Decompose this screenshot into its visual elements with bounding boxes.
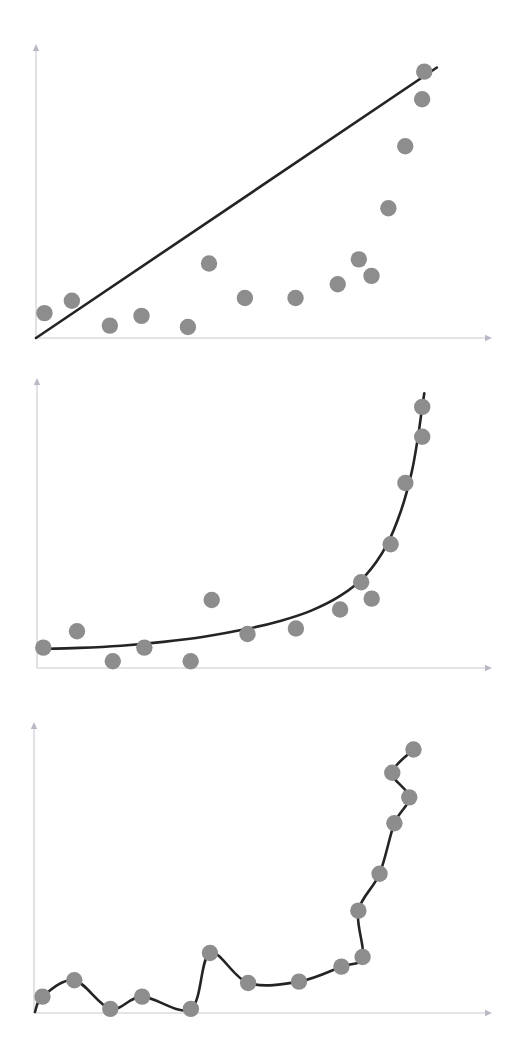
- data-point: [371, 866, 387, 882]
- x-axis-arrowhead: [485, 1010, 492, 1016]
- data-point: [350, 902, 366, 918]
- data-point: [288, 620, 304, 636]
- y-axis-arrowhead: [33, 44, 39, 51]
- data-point: [397, 475, 413, 491]
- data-point: [384, 765, 400, 781]
- data-points-group: [34, 741, 421, 1017]
- data-point: [414, 429, 430, 445]
- x-axis-arrowhead: [485, 335, 492, 341]
- data-points-group: [35, 399, 430, 670]
- interpolating-spline-curve: [35, 750, 413, 1012]
- data-point: [136, 639, 152, 655]
- data-point: [353, 574, 369, 590]
- data-point: [35, 639, 51, 655]
- chart-panel-underfitting: [0, 0, 524, 365]
- data-point: [397, 138, 413, 154]
- data-point: [382, 536, 398, 552]
- data-point: [202, 945, 218, 961]
- data-point: [36, 305, 52, 321]
- data-point: [102, 317, 118, 333]
- data-point: [239, 626, 255, 642]
- axes-overfitting: [31, 722, 492, 1016]
- data-point: [34, 988, 50, 1004]
- chart-panel-overfitting: [0, 705, 524, 1055]
- exponential-fit-curve: [37, 393, 424, 649]
- data-point: [386, 815, 402, 831]
- data-point: [363, 268, 379, 284]
- three-panel-fit-comparison-figure: [0, 0, 524, 1055]
- axes-good-fit: [34, 378, 492, 671]
- data-point: [133, 308, 149, 324]
- overfitting-scatter-plot: [0, 705, 524, 1055]
- data-point: [363, 590, 379, 606]
- data-point: [416, 63, 432, 79]
- data-point: [240, 975, 256, 991]
- data-point: [134, 988, 150, 1004]
- x-axis-arrowhead: [485, 665, 492, 671]
- data-point: [183, 1001, 199, 1017]
- axes-underfitting: [33, 44, 492, 341]
- data-point: [237, 290, 253, 306]
- data-point: [333, 958, 349, 974]
- good-fit-scatter-plot: [0, 365, 524, 705]
- y-axis-arrowhead: [34, 378, 40, 385]
- underfitting-scatter-plot: [0, 0, 524, 365]
- data-point: [405, 741, 421, 757]
- data-point: [332, 601, 348, 617]
- data-point: [401, 789, 417, 805]
- data-point: [201, 255, 217, 271]
- data-point: [69, 623, 85, 639]
- data-point: [380, 200, 396, 216]
- y-axis-arrowhead: [31, 722, 37, 729]
- data-point: [287, 290, 303, 306]
- data-point: [291, 973, 307, 989]
- data-point: [414, 91, 430, 107]
- data-point: [182, 653, 198, 669]
- data-point: [105, 653, 121, 669]
- data-point: [330, 276, 346, 292]
- chart-panel-good-fit: [0, 365, 524, 705]
- regression-line: [36, 68, 437, 338]
- data-point: [102, 1001, 118, 1017]
- data-point: [66, 972, 82, 988]
- data-points-group: [36, 63, 432, 335]
- data-point: [204, 592, 220, 608]
- data-point: [414, 399, 430, 415]
- data-point: [64, 293, 80, 309]
- data-point: [180, 319, 196, 335]
- data-point: [354, 949, 370, 965]
- data-point: [351, 251, 367, 267]
